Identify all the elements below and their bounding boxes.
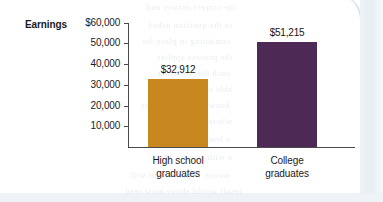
y-tick-label: 30,000 — [62, 79, 120, 90]
x-category-label-high-school-graduates: High school graduates — [138, 155, 218, 180]
x-category-line: College — [247, 155, 327, 168]
bar-value-college-graduates: $51,215 — [252, 27, 322, 38]
y-tick-label: 20,000 — [62, 100, 120, 111]
y-tick-label: 10,000 — [62, 120, 120, 131]
bar-value-high-school-graduates: $32,912 — [143, 64, 213, 75]
chart-page: the correct answer and to the question a… — [0, 0, 383, 202]
x-category-line: graduates — [138, 168, 218, 181]
y-axis-line — [128, 23, 129, 148]
y-tick-label: $60,000 — [62, 17, 120, 28]
y-tick-20000: 20,000 — [62, 100, 120, 113]
bar-chart: Earnings $60,000 50,000 40,000 30,000 20… — [0, 0, 383, 202]
y-tick-30000: 30,000 — [62, 79, 120, 92]
y-tick-50000: 50,000 — [62, 37, 120, 50]
bar-college-graduates — [257, 42, 317, 147]
y-tick-40000: 40,000 — [62, 58, 120, 71]
x-category-line: High school — [138, 155, 218, 168]
x-axis-line — [128, 147, 355, 148]
y-tick-label: 50,000 — [62, 37, 120, 48]
bar-high-school-graduates — [148, 79, 208, 147]
y-tick-label: 40,000 — [62, 58, 120, 69]
x-category-label-college-graduates: College graduates — [247, 155, 327, 180]
x-category-line: graduates — [247, 168, 327, 181]
y-tick-60000: $60,000 — [62, 17, 120, 30]
y-axis-title: Earnings — [25, 19, 67, 30]
y-tick-10000: 10,000 — [62, 120, 120, 133]
